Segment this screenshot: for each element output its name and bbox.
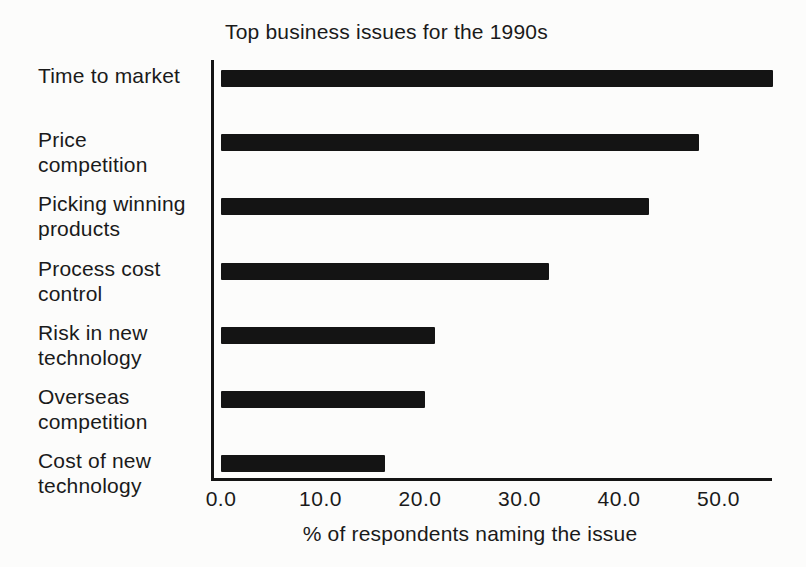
category-label-picking-winning-products: Picking winningproducts [38,191,208,241]
bar-process-cost-control [221,263,549,280]
category-label-line: technology [38,345,208,370]
category-label-line: competition [38,409,208,434]
x-axis-label: % of respondents naming the issue [170,522,770,546]
bar-price-competition [221,134,699,151]
category-label-time-to-market: Time to market [38,63,208,88]
category-label-line: products [38,216,208,241]
category-label-line: control [38,281,208,306]
category-label-line: Process cost [38,256,208,281]
category-label-line: Overseas [38,384,208,409]
category-label-price-competition: Pricecompetition [38,127,208,177]
x-tick-label-50: 50.0 [697,487,740,511]
category-label-overseas-competition: Overseascompetition [38,384,208,434]
bar-overseas-competition [221,391,425,408]
bar-risk-in-new-technology [221,327,435,344]
category-label-line: Price [38,127,208,152]
plot-area [211,60,772,481]
x-tick-label-10: 10.0 [299,487,342,511]
category-label-line: Picking winning [38,191,208,216]
category-label-line: competition [38,152,208,177]
bar-chart-figure: Top business issues for the 1990s % of r… [0,0,806,567]
category-label-line: Risk in new [38,320,208,345]
category-label-line: technology [38,473,208,498]
category-label-line: Time to market [38,63,208,88]
category-label-line: Cost of new [38,448,208,473]
x-tick-label-30: 30.0 [498,487,541,511]
chart-title: Top business issues for the 1990s [225,20,548,44]
bar-picking-winning-products [221,198,649,215]
category-label-cost-of-new-technology: Cost of newtechnology [38,448,208,498]
category-label-process-cost-control: Process costcontrol [38,256,208,306]
x-tick-label-0: 0.0 [206,487,237,511]
bar-time-to-market [221,70,773,87]
x-tick-label-20: 20.0 [399,487,442,511]
x-tick-label-40: 40.0 [598,487,641,511]
category-label-risk-in-new-technology: Risk in newtechnology [38,320,208,370]
bar-cost-of-new-technology [221,455,385,472]
